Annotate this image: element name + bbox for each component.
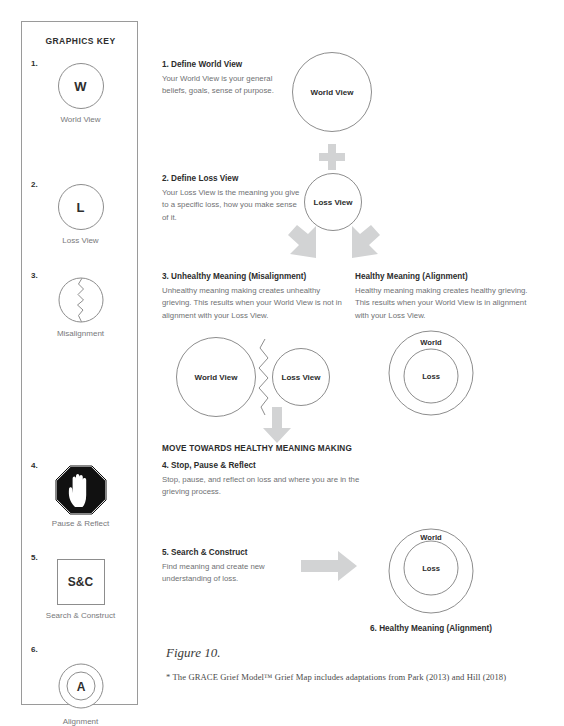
step3-left-heading: 3. Unhealthy Meaning (Misalignment) [162, 270, 344, 283]
step3-right-body: Healthy meaning making creates healthy g… [355, 285, 535, 322]
step1-heading: 1. Define World View [162, 58, 287, 71]
key-item-misalignment: 3. Misalignment [22, 271, 139, 361]
right-arrow-icon [300, 550, 358, 582]
step5-body: Find meaning and create new understandin… [162, 561, 292, 586]
key-glyph-text: S&C [57, 559, 105, 605]
world-view-bubble: World View [292, 52, 372, 132]
step6-heading: 6. Healthy Meaning (Alignment) [341, 622, 521, 635]
stop-hand-octagon-icon [22, 465, 139, 515]
step2-text-block: 2. Define Loss View Your Loss View is th… [162, 172, 302, 224]
graphics-key-title: GRAPHICS KEY [22, 36, 139, 46]
key-item-pause-reflect: 4. Pause & Reflect [22, 461, 139, 556]
key-item-label: World View [22, 115, 139, 124]
step2-heading: 2. Define Loss View [162, 172, 302, 185]
step1-body: Your World View is your general beliefs,… [162, 73, 287, 98]
step3-left-body: Unhealthy meaning making creates unhealt… [162, 285, 344, 322]
plus-connector-icon [318, 143, 346, 171]
step3-right-text-block: Healthy Meaning (Alignment) Healthy mean… [355, 270, 535, 322]
square-label-icon: S&C [22, 559, 139, 605]
alignment-ring-outer-label-top: World [388, 338, 474, 347]
step5-text-block: 5. Search & Construct Find meaning and c… [162, 546, 292, 586]
key-item-number: 6. [31, 645, 38, 654]
circle-letter-icon: W [22, 63, 139, 109]
figure-footnote: * The GRACE Grief Model™ Grief Map inclu… [166, 672, 564, 682]
step2-body: Your Loss View is the meaning you give t… [162, 187, 302, 224]
step3-left-text-block: 3. Unhealthy Meaning (Misalignment) Unhe… [162, 270, 344, 322]
alignment-ring-outer-label-bottom: World [388, 533, 474, 542]
key-item-label: Search & Construct [22, 611, 139, 620]
key-item-label: Alignment [22, 717, 139, 726]
misalign-loss-view-bubble: Loss View [272, 348, 330, 406]
diverging-arrows-icon [278, 224, 390, 264]
loss-view-bubble: Loss View [304, 173, 362, 231]
key-item-alignment: 6. A Alignment [22, 645, 139, 725]
step5-heading: 5. Search & Construct [162, 546, 292, 559]
step1-text-block: 1. Define World View Your World View is … [162, 58, 287, 98]
step3-right-heading: Healthy Meaning (Alignment) [355, 270, 535, 283]
key-item-world-view: 1. W World View [22, 59, 139, 149]
circle-letter-icon: L [22, 184, 139, 230]
step4-body: Stop, pause, and reflect on loss and whe… [162, 474, 362, 499]
key-item-label: Misalignment [22, 329, 139, 338]
cracked-circle-icon [22, 277, 139, 323]
move-towards-banner: MOVE TOWARDS HEALTHY MEANING MAKING [162, 444, 422, 453]
misalign-world-view-bubble: World View [176, 337, 256, 417]
key-item-label: Loss View [22, 236, 139, 245]
key-glyph-letter: L [58, 184, 104, 230]
step4-heading: 4. Stop, Pause & Reflect [162, 459, 362, 472]
svg-text:A: A [76, 680, 85, 694]
alignment-ring-inner-label-top: Loss [388, 372, 474, 381]
key-item-label: Pause & Reflect [22, 519, 139, 528]
key-item-search-construct: 5. S&C Search & Construct [22, 553, 139, 648]
step4-text-block: 4. Stop, Pause & Reflect Stop, pause, an… [162, 459, 362, 499]
graphics-key-panel: GRAPHICS KEY 1. W World View 2. L Loss V… [21, 21, 138, 705]
alignment-ring-inner-label-bottom: Loss [388, 564, 474, 573]
down-arrow-icon [262, 406, 292, 444]
figure-caption: Figure 10. [166, 645, 220, 661]
concentric-circle-icon: A [22, 663, 139, 709]
key-glyph-letter: W [58, 63, 104, 109]
key-item-loss-view: 2. L Loss View [22, 180, 139, 270]
